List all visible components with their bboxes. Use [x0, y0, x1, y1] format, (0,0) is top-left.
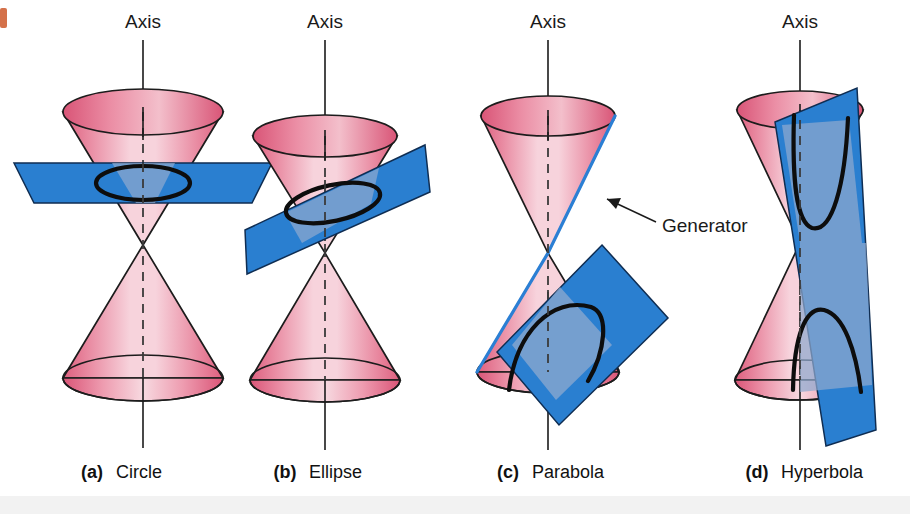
- caption-name-c: Parabola: [532, 462, 605, 482]
- caption-name-a: Circle: [116, 462, 162, 482]
- conic-sections-figure: Axis (a) Circle Axis (b) El: [0, 0, 910, 514]
- figure-canvas: Axis (a) Circle Axis (b) El: [0, 0, 910, 514]
- axis-label-b: Axis: [307, 11, 343, 32]
- axis-label-c: Axis: [530, 11, 566, 32]
- caption-letter-d: (d): [746, 462, 769, 482]
- caption-name-d: Hyperbola: [781, 462, 864, 482]
- caption-letter-c: (c): [497, 462, 519, 482]
- caption-name-b: Ellipse: [309, 462, 362, 482]
- axis-label-d: Axis: [782, 11, 818, 32]
- panel-b-ellipse: Axis (b) Ellipse: [245, 11, 430, 482]
- page-scan-band: [0, 496, 910, 514]
- panel-a-circle: Axis (a) Circle: [14, 11, 272, 482]
- panel-c-parabola: Generator Axis (c) Parabola: [477, 11, 748, 482]
- axis-label-a: Axis: [125, 11, 161, 32]
- page-corner-mark: [0, 8, 7, 28]
- panel-d-hyperbola: Axis (d) Hyperbola: [735, 11, 876, 482]
- caption-letter-b: (b): [274, 462, 297, 482]
- generator-arrowhead: [607, 198, 621, 209]
- caption-letter-a: (a): [81, 462, 103, 482]
- generator-label: Generator: [662, 215, 748, 236]
